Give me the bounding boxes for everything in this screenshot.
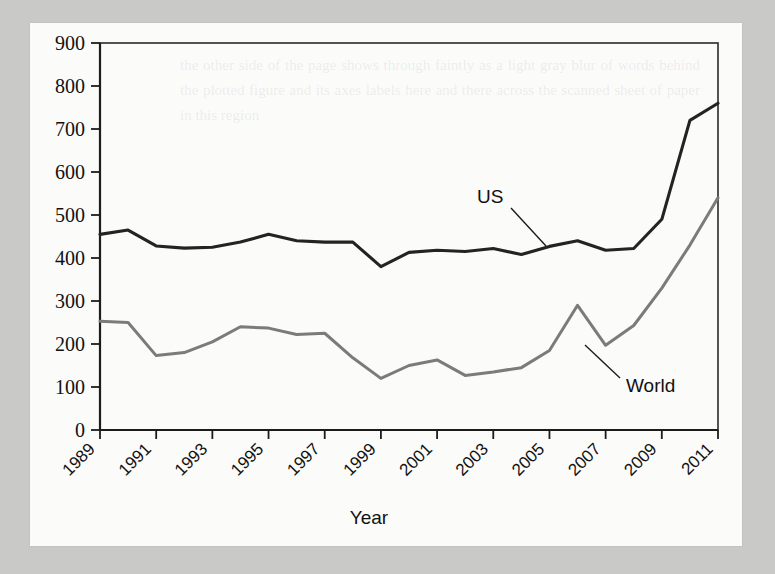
series-label-us: US (477, 186, 503, 207)
annotation-world: World (585, 345, 675, 396)
x-tick-label: 1989 (59, 439, 99, 479)
x-tick-label: 2003 (452, 439, 492, 479)
plot-frame (100, 43, 718, 430)
y-tick-label: 0 (75, 419, 85, 441)
chart-svg: 0100200300400500600700800900 19891991199… (0, 0, 775, 574)
y-tick-label: 500 (55, 204, 85, 226)
y-tick-label: 900 (55, 32, 85, 54)
annotation-us: US (477, 186, 546, 246)
x-tick-label: 2007 (564, 439, 604, 479)
x-axis-ticks: 1989199119931995199719992001200320052007… (59, 430, 718, 480)
series-line-us (100, 103, 718, 266)
x-tick-label: 1995 (227, 439, 267, 479)
scanned-page: the other side of the page shows through… (0, 0, 775, 574)
y-tick-label: 800 (55, 75, 85, 97)
y-tick-label: 600 (55, 161, 85, 183)
world-leader-line (585, 345, 620, 378)
x-tick-label: 1999 (340, 439, 380, 479)
x-tick-label: 2005 (508, 439, 548, 479)
x-tick-label: 1991 (115, 439, 155, 479)
x-axis-title: Year (350, 507, 389, 528)
series-group (100, 103, 718, 378)
series-line-world (100, 198, 718, 379)
y-tick-label: 700 (55, 118, 85, 140)
y-tick-label: 200 (55, 333, 85, 355)
x-tick-label: 1993 (171, 439, 211, 479)
x-tick-label: 2001 (396, 439, 436, 479)
x-tick-label: 2009 (620, 439, 660, 479)
y-tick-label: 300 (55, 290, 85, 312)
x-tick-label: 1997 (283, 439, 323, 479)
y-tick-label: 400 (55, 247, 85, 269)
y-tick-label: 100 (55, 376, 85, 398)
series-label-world: World (626, 375, 675, 396)
y-axis-ticks: 0100200300400500600700800900 (55, 32, 100, 441)
us-leader-line (511, 208, 546, 246)
x-tick-label: 2011 (678, 439, 717, 478)
line-chart: 0100200300400500600700800900 19891991199… (0, 0, 775, 574)
